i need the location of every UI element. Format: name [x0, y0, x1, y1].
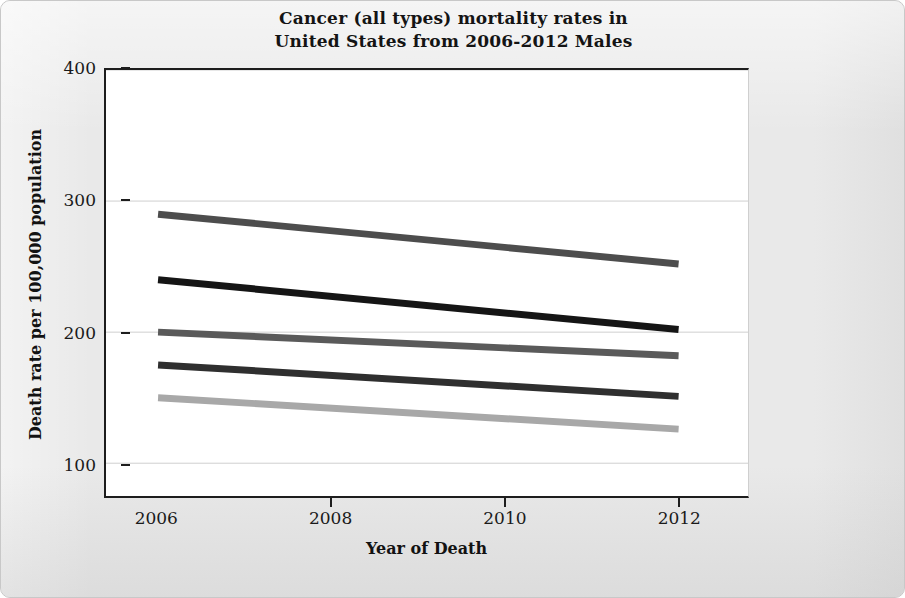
x-tick-mark — [504, 498, 506, 507]
y-tick-mark — [121, 67, 130, 69]
x-axis-label: Year of Death — [104, 539, 749, 558]
y-axis-label: Death rate per 100,000 population — [26, 75, 45, 495]
y-tick-mark — [121, 332, 130, 334]
series-line — [158, 365, 679, 396]
series-line — [158, 214, 679, 264]
x-tick-mark — [330, 498, 332, 507]
chart-title: Cancer (all types) mortality rates in Un… — [1, 7, 905, 53]
y-tick-mark — [121, 199, 130, 201]
y-tick-mark — [121, 464, 130, 466]
series-line — [158, 332, 679, 356]
x-axis-ticks: 2006200820102012 — [104, 498, 749, 532]
x-tick-mark — [678, 498, 680, 507]
x-tick-label: 2012 — [639, 508, 719, 528]
series-line — [158, 280, 679, 330]
plot-area — [104, 68, 749, 498]
x-tick-label: 2006 — [116, 508, 196, 528]
series-line — [158, 398, 679, 429]
x-tick-label: 2008 — [291, 508, 371, 528]
x-tick-label: 2010 — [465, 508, 545, 528]
chart-figure: Cancer (all types) mortality rates in Un… — [0, 0, 905, 598]
series-lines — [106, 70, 748, 496]
